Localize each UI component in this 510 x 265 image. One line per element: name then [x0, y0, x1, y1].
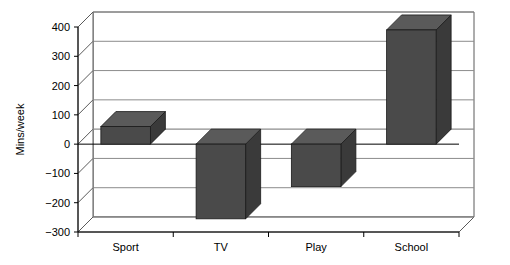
bar [101, 112, 166, 145]
x-axis-category-label: School [395, 241, 429, 253]
y-axis-tick-label: −200 [45, 197, 70, 209]
y-axis-tick-label: 300 [52, 50, 70, 62]
x-axis: SportTVPlaySchool [78, 232, 459, 253]
y-axis-tick-label: 0 [64, 138, 70, 150]
bar-front-face [291, 144, 341, 186]
bar-side-face [246, 129, 261, 219]
bar-side-face [436, 15, 451, 144]
bar-front-face [196, 144, 246, 219]
x-axis-category-label: TV [214, 241, 229, 253]
bar [196, 129, 261, 219]
x-axis-category-label: Sport [112, 241, 138, 253]
bar-front-face [387, 30, 437, 144]
bar [291, 129, 356, 186]
y-axis-tick-label: −300 [45, 226, 70, 238]
y-axis-title: Mins/week [14, 103, 26, 155]
plot-left-wall [78, 12, 93, 232]
bar-front-face [101, 127, 151, 145]
x-axis-category-label: Play [305, 241, 327, 253]
y-axis-tick-label: −100 [45, 167, 70, 179]
bar-chart: 4003002001000−100−200−300Mins/weekSportT… [0, 0, 510, 265]
y-axis-tick-label: 200 [52, 80, 70, 92]
y-axis: 4003002001000−100−200−300 [45, 21, 78, 238]
chart-canvas: 4003002001000−100−200−300Mins/weekSportT… [0, 0, 510, 265]
y-axis-tick-label: 100 [52, 109, 70, 121]
y-axis-tick-label: 400 [52, 21, 70, 33]
bar [387, 15, 452, 144]
plot-floor [78, 217, 474, 232]
